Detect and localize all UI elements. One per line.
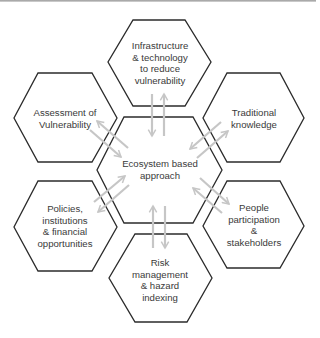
label-risk: Risk management & hazard indexing bbox=[132, 257, 188, 303]
label-traditional: Traditional knowledge bbox=[231, 107, 277, 130]
label-ecosystem-center: Ecosystem based approach bbox=[122, 158, 198, 181]
label-assessment: Assessment of Vulnerability bbox=[34, 107, 97, 130]
label-policies: Policies, institutions & financial oppor… bbox=[38, 203, 93, 249]
label-people: People participation & stakeholders bbox=[227, 202, 281, 248]
label-infrastructure: Infrastructure & technology to reduce vu… bbox=[132, 40, 189, 86]
